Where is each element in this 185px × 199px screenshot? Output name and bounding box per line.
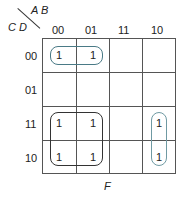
column-header: 10 <box>151 24 163 36</box>
column-variable-label: A B <box>31 4 48 16</box>
row-header: 11 <box>25 118 36 130</box>
group-col10-rows11-10 <box>151 112 167 166</box>
kmap-grid: 1 1 1 1 1 1 1 1 <box>42 38 176 174</box>
column-header: 01 <box>85 24 97 36</box>
row-variable-label: C D <box>8 21 27 33</box>
function-label: F <box>104 180 111 192</box>
group-row00-cols00-01 <box>50 46 103 65</box>
group-quad-rows11-10-cols00-01 <box>50 112 103 166</box>
row-header: 00 <box>25 50 37 62</box>
row-header: 01 <box>25 84 37 96</box>
column-header: 00 <box>52 24 64 36</box>
row-header: 10 <box>25 152 37 164</box>
column-header: 11 <box>118 24 129 36</box>
